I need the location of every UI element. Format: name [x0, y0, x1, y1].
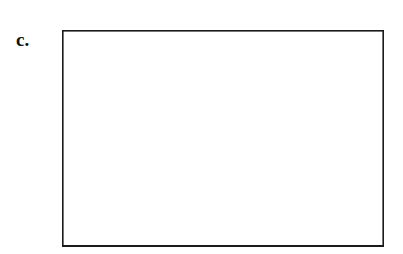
histogram-svg — [62, 30, 384, 247]
panel-label: c. — [16, 30, 29, 49]
plot-frame — [63, 31, 383, 246]
histogram-chart — [62, 30, 384, 247]
figure-root: c. — [0, 0, 403, 254]
